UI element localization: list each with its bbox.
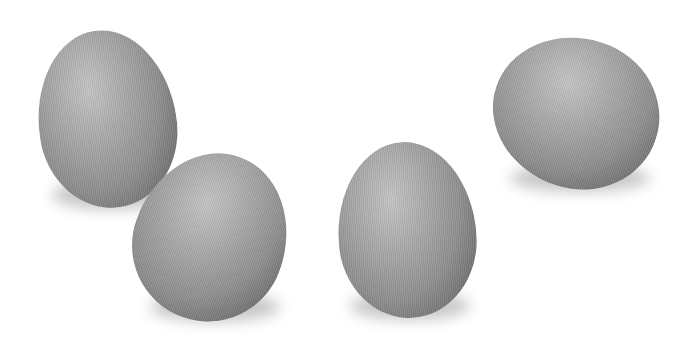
egg-bottom-center xyxy=(332,137,482,322)
